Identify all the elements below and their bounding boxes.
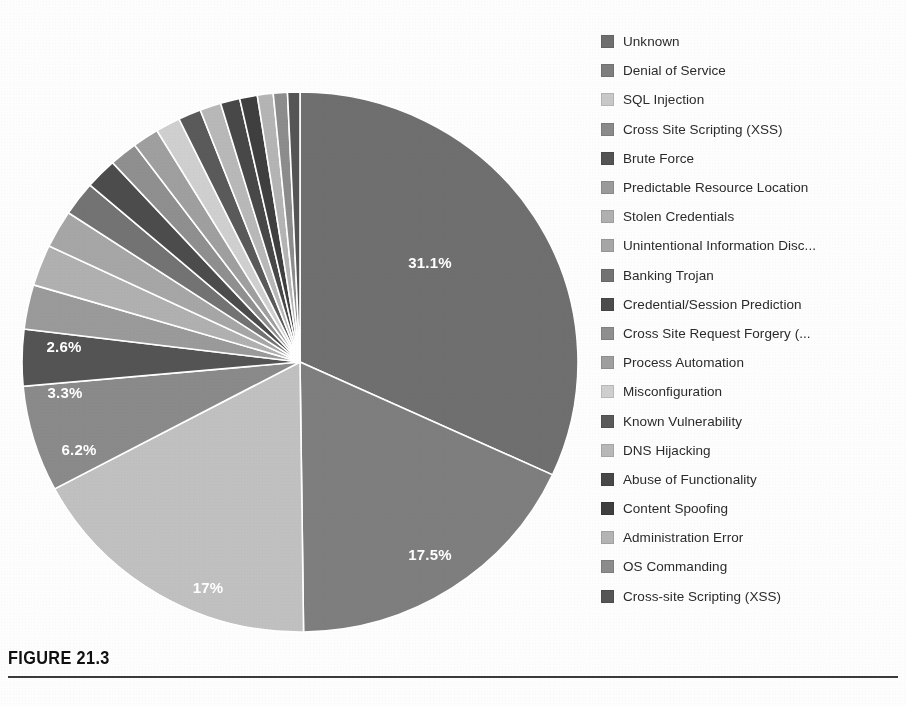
legend-color-swatch: [601, 385, 614, 398]
legend-item[interactable]: Cross-site Scripting (XSS): [601, 582, 901, 611]
legend-item[interactable]: Unintentional Information Disc...: [601, 231, 901, 260]
pie-slice-value-label: 17.5%: [408, 546, 452, 563]
legend-item-label: Administration Error: [623, 530, 743, 545]
legend-item[interactable]: Cross Site Scripting (XSS): [601, 115, 901, 144]
legend-item-label: Cross Site Scripting (XSS): [623, 122, 783, 137]
legend-item[interactable]: Stolen Credentials: [601, 202, 901, 231]
legend-color-swatch: [601, 298, 614, 311]
legend-item-label: Misconfiguration: [623, 384, 722, 399]
legend-item-label: Predictable Resource Location: [623, 180, 808, 195]
legend-item-label: Unintentional Information Disc...: [623, 238, 816, 253]
legend-color-swatch: [601, 444, 614, 457]
legend-item-label: Known Vulnerability: [623, 414, 742, 429]
legend-item-label: Denial of Service: [623, 63, 726, 78]
legend-color-swatch: [601, 35, 614, 48]
legend-color-swatch: [601, 560, 614, 573]
legend-item[interactable]: Content Spoofing: [601, 494, 901, 523]
legend-item-label: Stolen Credentials: [623, 209, 734, 224]
legend-item[interactable]: Administration Error: [601, 523, 901, 552]
legend-item[interactable]: OS Commanding: [601, 552, 901, 581]
chart-legend: UnknownDenial of ServiceSQL InjectionCro…: [601, 27, 901, 611]
legend-item-label: SQL Injection: [623, 92, 704, 107]
pie-slice-value-label: 31.1%: [408, 254, 452, 271]
legend-color-swatch: [601, 181, 614, 194]
pie-slice-value-label: 17%: [193, 579, 224, 596]
figure-container: 31.1%17.5%17%6.2%3.3%2.6% UnknownDenial …: [0, 0, 906, 706]
legend-color-swatch: [601, 123, 614, 136]
legend-color-swatch: [601, 327, 614, 340]
legend-item-label: Unknown: [623, 34, 680, 49]
legend-item-label: Cross Site Request Forgery (...: [623, 326, 811, 341]
legend-color-swatch: [601, 473, 614, 486]
legend-color-swatch: [601, 210, 614, 223]
legend-item-label: Credential/Session Prediction: [623, 297, 802, 312]
legend-color-swatch: [601, 93, 614, 106]
legend-item-label: Cross-site Scripting (XSS): [623, 589, 781, 604]
pie-slice-value-label: 2.6%: [47, 338, 82, 355]
legend-item[interactable]: Brute Force: [601, 144, 901, 173]
pie-slice-value-label: 3.3%: [48, 384, 83, 401]
legend-item-label: DNS Hijacking: [623, 443, 711, 458]
figure-caption-block: FIGURE 21.3: [8, 648, 898, 678]
legend-color-swatch: [601, 502, 614, 515]
legend-item[interactable]: Denial of Service: [601, 56, 901, 85]
legend-color-swatch: [601, 239, 614, 252]
legend-item[interactable]: Credential/Session Prediction: [601, 290, 901, 319]
legend-item[interactable]: Cross Site Request Forgery (...: [601, 319, 901, 348]
legend-item[interactable]: Unknown: [601, 27, 901, 56]
legend-item-label: Content Spoofing: [623, 501, 728, 516]
legend-item-label: Abuse of Functionality: [623, 472, 757, 487]
legend-item-label: Brute Force: [623, 151, 694, 166]
legend-item[interactable]: Banking Trojan: [601, 261, 901, 290]
legend-item[interactable]: Abuse of Functionality: [601, 465, 901, 494]
legend-color-swatch: [601, 590, 614, 603]
legend-color-swatch: [601, 531, 614, 544]
legend-item[interactable]: Known Vulnerability: [601, 406, 901, 435]
figure-caption: FIGURE 21.3: [8, 648, 836, 669]
legend-item-label: Process Automation: [623, 355, 744, 370]
pie-chart-svg: 31.1%17.5%17%6.2%3.3%2.6%: [0, 0, 600, 650]
legend-item[interactable]: SQL Injection: [601, 85, 901, 114]
pie-slice-group: [22, 92, 578, 632]
caption-divider: [8, 676, 898, 678]
legend-item-label: OS Commanding: [623, 559, 727, 574]
legend-color-swatch: [601, 356, 614, 369]
legend-item[interactable]: Misconfiguration: [601, 377, 901, 406]
legend-color-swatch: [601, 269, 614, 282]
pie-chart: 31.1%17.5%17%6.2%3.3%2.6%: [0, 0, 600, 650]
legend-item[interactable]: DNS Hijacking: [601, 436, 901, 465]
legend-color-swatch: [601, 64, 614, 77]
pie-slice-value-label: 6.2%: [62, 441, 97, 458]
legend-color-swatch: [601, 415, 614, 428]
legend-color-swatch: [601, 152, 614, 165]
legend-item-label: Banking Trojan: [623, 268, 714, 283]
legend-item[interactable]: Predictable Resource Location: [601, 173, 901, 202]
legend-item[interactable]: Process Automation: [601, 348, 901, 377]
